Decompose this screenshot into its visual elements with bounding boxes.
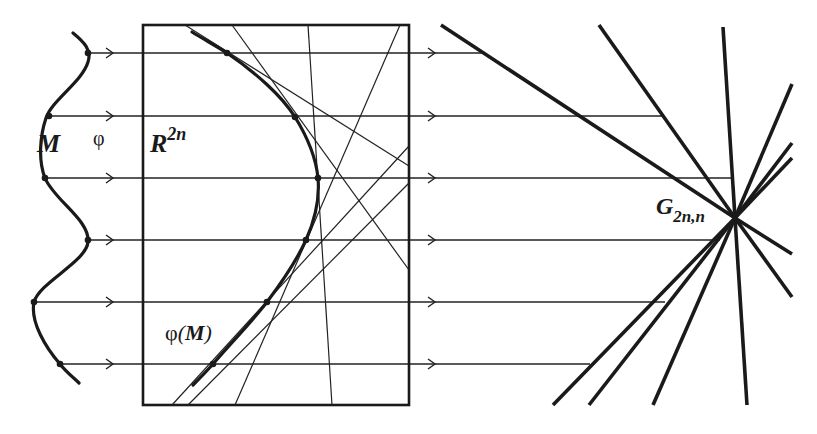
grassmannian-label: G2n,n [656, 193, 705, 226]
arrowheads-left [106, 48, 113, 369]
space-label-base: R [149, 129, 167, 158]
image-label-close: ) [203, 320, 212, 345]
image-label-prefix: φ [165, 320, 178, 345]
arrowheads-right [428, 48, 435, 369]
space-label-exponent: 2n [166, 124, 186, 144]
image-label: φ(M) [165, 320, 212, 345]
manifold-curve [33, 33, 89, 383]
map-label: φ [93, 127, 105, 150]
grassmannian-label-subscript: 2n,n [672, 207, 705, 226]
image-points [210, 50, 322, 368]
manifold-label: M [36, 129, 61, 158]
tangent-planes [172, 25, 409, 405]
mapping-rays [34, 53, 731, 364]
image-label-inner: M [184, 320, 206, 345]
space-label: R2n [149, 124, 186, 158]
grassmannian-label-base: G [656, 193, 674, 219]
grassmannian-pencil [441, 25, 792, 405]
gauss-map-diagram: M φ R2n φ(M) G2n,n [0, 0, 817, 434]
